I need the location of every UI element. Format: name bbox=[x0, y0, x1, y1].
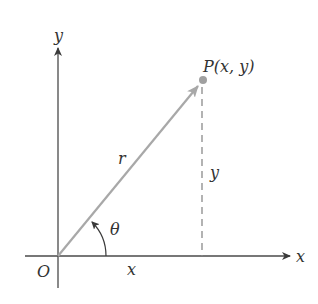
point-label: P(x, y) bbox=[202, 57, 254, 76]
radius-label: r bbox=[118, 149, 127, 168]
radius-vector bbox=[58, 86, 198, 256]
angle-label: θ bbox=[110, 220, 120, 239]
origin-label: O bbox=[37, 262, 50, 281]
polar-coordinates-diagram: y x O P(x, y) r θ x y bbox=[0, 0, 318, 304]
x-axis-label: x bbox=[296, 247, 305, 266]
point-p bbox=[199, 76, 207, 84]
x-length-label: x bbox=[127, 260, 136, 279]
y-axis-label: y bbox=[53, 26, 64, 45]
y-length-label: y bbox=[209, 163, 220, 182]
angle-arc bbox=[92, 222, 106, 256]
